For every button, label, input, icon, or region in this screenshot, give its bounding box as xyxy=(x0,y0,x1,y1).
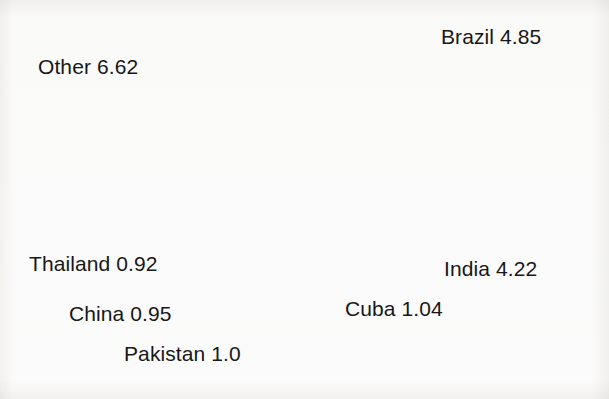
pie-label-other: Other 6.62 xyxy=(38,55,138,79)
pie-chart-figure: Brazil 4.85 Other 6.62 India 4.22 Cuba 1… xyxy=(0,0,609,399)
leader-line-pakistan xyxy=(288,281,303,340)
leader-line-china xyxy=(231,265,257,312)
leader-line-brazil xyxy=(413,44,442,67)
leader-line-thailand xyxy=(208,230,228,252)
pie-slice-group xyxy=(211,32,452,285)
pie-label-india: India 4.22 xyxy=(444,257,537,281)
pie-label-brazil: Brazil 4.85 xyxy=(441,25,541,49)
pie-label-pakistan: Pakistan 1.0 xyxy=(124,342,241,366)
leader-line-india xyxy=(426,232,452,253)
pie-label-thailand: Thailand 0.92 xyxy=(29,252,158,276)
pie-label-china: China 0.95 xyxy=(69,302,172,326)
pie-label-cuba: Cuba 1.04 xyxy=(345,297,443,321)
leader-line-other xyxy=(204,80,232,99)
